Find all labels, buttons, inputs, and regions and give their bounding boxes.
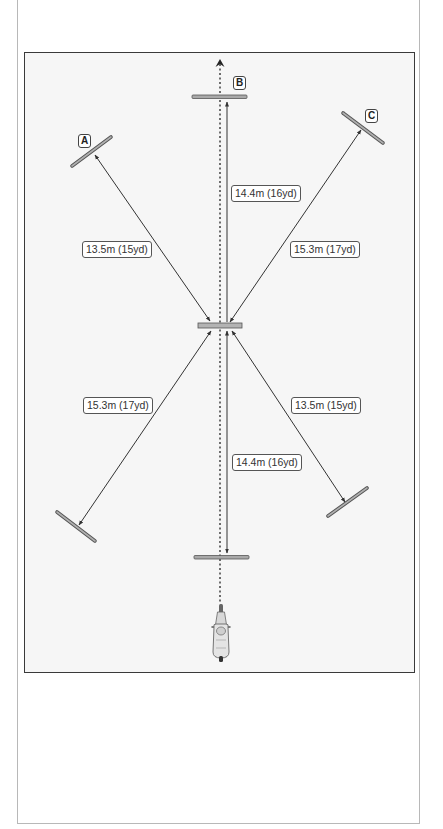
cone-layout-diagram	[0, 0, 443, 829]
distance-label-center-to-lower-right: 13.5m (15yd)	[291, 397, 361, 414]
line-center-to-lower-left	[79, 331, 211, 525]
distance-label-center-to-lower-left: 15.3m (17yd)	[83, 397, 153, 414]
motorcycle-icon	[212, 604, 230, 662]
line-center-to-lower-right	[232, 331, 345, 502]
distance-label-center-to-B: 14.4m (16yd)	[231, 185, 301, 202]
line-center-to-A	[95, 155, 210, 321]
cone-label-A: A	[78, 134, 91, 148]
cone-bar-B	[192, 95, 247, 99]
distance-label-center-to-A: 13.5m (15yd)	[82, 241, 152, 258]
cone-bar-bottom	[194, 556, 249, 560]
travel-path	[216, 59, 225, 604]
cone-label-B: B	[233, 76, 246, 90]
distance-label-center-to-bottom: 14.4m (16yd)	[232, 454, 302, 471]
line-center-to-C	[230, 130, 361, 322]
cone-bar-center	[198, 323, 242, 328]
cone-label-C: C	[365, 109, 378, 123]
distance-label-center-to-C: 15.3m (17yd)	[290, 241, 360, 258]
